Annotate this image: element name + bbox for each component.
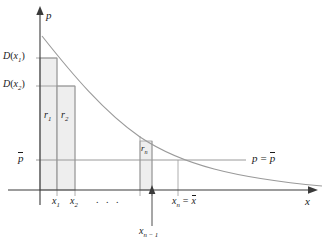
rectangle-label-r1: r1 <box>44 110 51 123</box>
figure-canvas: p x D(x1) D(x2) p r1 r2 rn x1 x2 . . . x… <box>0 0 330 244</box>
x-tick-label-xn: xn=x <box>172 196 196 209</box>
rectangle-label-r2: r2 <box>61 110 68 123</box>
x-tick-label-xn-minus-1: xn − 1 <box>139 226 158 239</box>
d-x1-paren-close: ) <box>21 50 24 61</box>
y-axis-arrowhead <box>36 6 43 15</box>
x-axis-arrowhead <box>308 186 318 193</box>
p-eq-left: p <box>252 152 258 164</box>
xn-minus-1-sub: n − 1 <box>143 231 158 238</box>
rn-sub: n <box>145 149 148 155</box>
xn-equals: = <box>183 195 189 206</box>
rectangle-r1 <box>40 58 57 190</box>
y-tick-label-d-x2: D(x2) <box>3 79 25 92</box>
xn-xbar-overline: x <box>192 196 196 206</box>
x-axis-label: x <box>305 196 310 207</box>
x-tick-label-x2: x2 <box>70 196 78 209</box>
d-x2-paren-close: ) <box>21 78 24 89</box>
y-tick-label-d-x1: D(x1) <box>3 51 25 64</box>
xn-sub: n <box>176 201 179 208</box>
x-tick-label-x1: x1 <box>52 196 60 209</box>
r1-sub: 1 <box>48 115 51 122</box>
y-tick-label-p-bar: p <box>18 153 24 164</box>
p-eq-sign: = <box>261 152 267 164</box>
rectangle-label-rn: rn <box>141 144 148 155</box>
x1-sub: 1 <box>56 201 59 208</box>
x-tick-ellipsis: . . . <box>96 195 121 205</box>
p-eq-right-overline: p <box>270 153 276 164</box>
p-bar-overline: p <box>18 153 24 164</box>
r2-sub: 2 <box>65 115 68 122</box>
equilibrium-price-label: p=p <box>252 153 275 164</box>
x2-sub: 2 <box>74 201 77 208</box>
rectangle-r2 <box>57 86 75 190</box>
demand-curve <box>42 36 322 186</box>
y-axis-label: p <box>46 10 52 21</box>
